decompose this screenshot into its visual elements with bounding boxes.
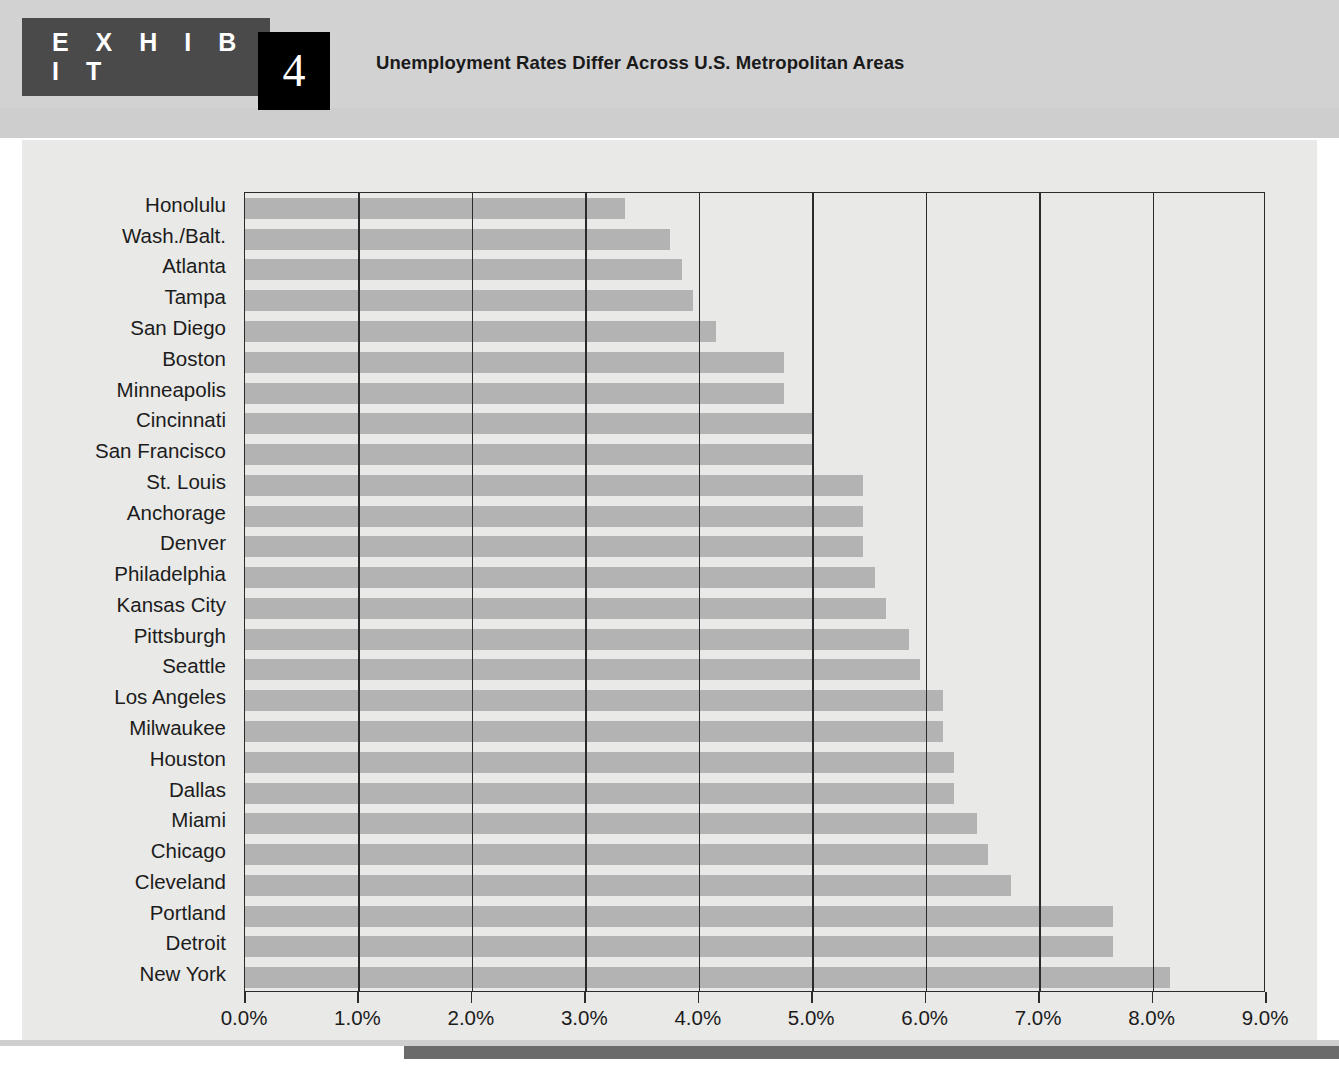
bar-row [245,352,1266,373]
x-axis-tick-label: 0.0% [221,1006,268,1030]
x-axis-tick-label: 5.0% [788,1006,835,1030]
bar-row [245,752,1266,773]
bar-row [245,229,1266,250]
exhibit-label: E X H I B I T [22,28,270,86]
bar-row [245,506,1266,527]
bar [245,229,670,250]
exhibit-number-box: 4 [258,32,330,110]
x-axis-tick [1152,992,1154,1003]
bar-row [245,536,1266,557]
x-axis-tick [244,992,246,1003]
exhibit-banner: E X H I B I T [22,18,270,96]
gridline-2.0 [472,193,474,991]
x-axis-tick [1038,992,1040,1003]
x-axis-tick-label: 7.0% [1015,1006,1062,1030]
y-axis-label: Dallas [169,780,226,801]
x-axis-tick-label: 4.0% [674,1006,721,1030]
bar [245,813,977,834]
bar [245,290,693,311]
gridline-3.0 [585,193,587,991]
bar-row [245,783,1266,804]
y-axis-label: Chicago [151,841,226,862]
exhibit-number: 4 [283,48,306,94]
y-axis-label: Milwaukee [129,718,226,739]
bar-row [245,659,1266,680]
bar [245,936,1113,957]
bar [245,721,943,742]
x-axis-tick [584,992,586,1003]
bar [245,967,1170,988]
bar-row [245,721,1266,742]
x-axis-labels: 0.0%1.0%2.0%3.0%4.0%5.0%6.0%7.0%8.0%9.0% [22,1006,1317,1042]
bar [245,536,863,557]
y-axis-label: Denver [160,533,226,554]
plot-area [244,192,1265,992]
chart-plate: HonoluluWash./Balt.AtlantaTampaSan Diego… [22,140,1317,1040]
bar [245,906,1113,927]
y-axis-label: Philadelphia [114,564,226,585]
y-axis-label: Wash./Balt. [122,226,226,247]
bar-row [245,321,1266,342]
gridline-1.0 [358,193,360,991]
bottom-accent-bar [404,1046,1339,1059]
bar [245,352,784,373]
x-axis-tick-label: 3.0% [561,1006,608,1030]
y-axis-label: Los Angeles [114,687,226,708]
bar-row [245,444,1266,465]
x-axis-tick-label: 1.0% [334,1006,381,1030]
y-axis-label: Seattle [162,656,226,677]
bar [245,506,863,527]
bar [245,444,812,465]
bar-row [245,967,1266,988]
bar-row [245,475,1266,496]
bar-row [245,936,1266,957]
bar-row [245,413,1266,434]
y-axis-label: Kansas City [117,595,226,616]
bar [245,475,863,496]
y-axis-label: Anchorage [127,503,226,524]
y-axis-label: Tampa [164,287,226,308]
bar [245,752,954,773]
y-axis-label: San Diego [130,318,226,339]
gridline-6.0 [926,193,928,991]
bar-row [245,875,1266,896]
bar-row [245,813,1266,834]
x-axis-tick [925,992,927,1003]
bar-row [245,844,1266,865]
y-axis-label: New York [139,964,226,985]
y-axis-label: San Francisco [95,441,226,462]
x-axis-tick [698,992,700,1003]
bar [245,321,716,342]
bar-row [245,598,1266,619]
page-title: Unemployment Rates Differ Across U.S. Me… [376,52,905,74]
y-axis-label: St. Louis [146,472,226,493]
header-secondary-band [0,108,1339,138]
bar-row [245,259,1266,280]
bar-row [245,629,1266,650]
exhibit-page: E X H I B I T 4 Unemployment Rates Diffe… [0,0,1339,1079]
y-axis-label: Detroit [166,933,226,954]
bar [245,198,625,219]
bar-row [245,198,1266,219]
x-axis-tick [471,992,473,1003]
y-axis-label: Miami [171,810,226,831]
bar [245,659,920,680]
gridline-8.0 [1153,193,1155,991]
y-axis-label: Honolulu [145,195,226,216]
bar-rows [245,193,1264,991]
bar [245,598,886,619]
bar-row [245,567,1266,588]
y-axis-label: Houston [150,749,226,770]
gridline-4.0 [699,193,701,991]
bar-row [245,906,1266,927]
y-axis-label: Minneapolis [117,380,226,401]
bar [245,567,875,588]
x-axis-tick [357,992,359,1003]
bar-row [245,690,1266,711]
bar [245,844,988,865]
x-axis-tick-label: 8.0% [1128,1006,1175,1030]
y-axis-label: Cincinnati [136,410,226,431]
y-axis-labels: HonoluluWash./Balt.AtlantaTampaSan Diego… [22,192,236,992]
y-axis-label: Cleveland [135,872,226,893]
gridline-5.0 [812,193,814,991]
